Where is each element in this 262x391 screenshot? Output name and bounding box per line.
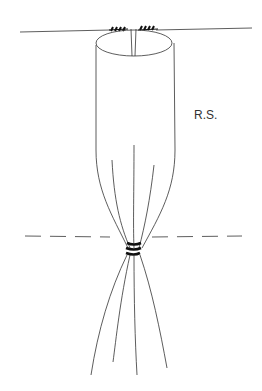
right-side-label: R.S. [194, 108, 217, 122]
tube-right-side [142, 43, 175, 248]
tie-wrap [126, 243, 141, 255]
fold-lines-upper [112, 145, 154, 248]
tube-left-side [96, 45, 128, 248]
fringe-lines-lower [91, 255, 167, 375]
seam-slit [131, 29, 136, 56]
tube-opening [96, 30, 172, 56]
sewing-diagram: R.S. [0, 0, 262, 391]
fabric-tube-illustration [0, 0, 262, 391]
stitches-right [138, 26, 158, 30]
